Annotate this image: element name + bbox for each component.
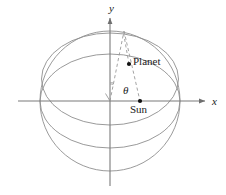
planet-orbit-diagram: y x Planet Sun θ (0, 0, 226, 195)
diagram-canvas (0, 0, 226, 195)
planet-label: Planet (133, 56, 161, 67)
sun-label: Sun (130, 104, 147, 115)
y-axis-label: y (109, 3, 114, 14)
origin-tick (106, 94, 111, 102)
dashed-origin-to-apex (110, 31, 124, 101)
x-axis-label: x (212, 96, 217, 107)
theta-angle-label: θ (123, 85, 128, 96)
planet-point (127, 62, 131, 66)
